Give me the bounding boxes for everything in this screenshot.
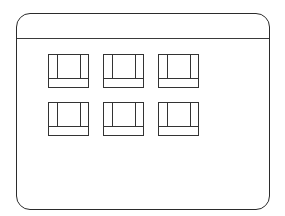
icon-base-line bbox=[159, 78, 198, 79]
icon-base-line bbox=[104, 78, 143, 79]
icon-base-line bbox=[104, 126, 143, 127]
icon-divider-right bbox=[135, 103, 136, 126]
icon-divider-left bbox=[112, 103, 113, 126]
icon-divider-left bbox=[57, 103, 58, 126]
icon-divider-left bbox=[112, 55, 113, 78]
icon-grid bbox=[48, 54, 199, 136]
folder-icon-4[interactable] bbox=[48, 102, 89, 136]
icon-divider-right bbox=[80, 103, 81, 126]
application-window bbox=[16, 13, 270, 210]
icon-divider-left bbox=[167, 103, 168, 126]
folder-icon-6[interactable] bbox=[158, 102, 199, 136]
icon-divider-right bbox=[80, 55, 81, 78]
icon-divider-right bbox=[190, 103, 191, 126]
folder-icon-2[interactable] bbox=[103, 54, 144, 88]
title-bar[interactable] bbox=[17, 14, 269, 39]
icon-base-line bbox=[49, 78, 88, 79]
icon-divider-left bbox=[167, 55, 168, 78]
icon-divider-left bbox=[57, 55, 58, 78]
icon-divider-right bbox=[135, 55, 136, 78]
icon-divider-right bbox=[190, 55, 191, 78]
folder-icon-1[interactable] bbox=[48, 54, 89, 88]
icon-base-line bbox=[159, 126, 198, 127]
folder-icon-3[interactable] bbox=[158, 54, 199, 88]
folder-icon-5[interactable] bbox=[103, 102, 144, 136]
icon-base-line bbox=[49, 126, 88, 127]
